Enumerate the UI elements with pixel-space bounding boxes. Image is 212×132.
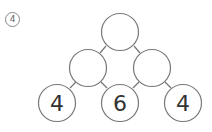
middle-right-circle[interactable] bbox=[134, 50, 171, 87]
middle-left-circle[interactable] bbox=[70, 50, 107, 87]
connector-line bbox=[134, 46, 140, 53]
bottom-middle-value: 6 bbox=[113, 91, 127, 116]
connector-line bbox=[70, 82, 76, 88]
connector-line bbox=[165, 82, 171, 88]
bottom-right-value: 4 bbox=[176, 91, 190, 116]
connector-line bbox=[100, 46, 106, 53]
top-circle[interactable] bbox=[102, 14, 139, 51]
bottom-left-value: 4 bbox=[50, 91, 64, 116]
connector-line bbox=[133, 82, 139, 88]
number-pyramid-diagram: 4 6 4 bbox=[0, 0, 212, 132]
connector-line bbox=[101, 82, 107, 88]
